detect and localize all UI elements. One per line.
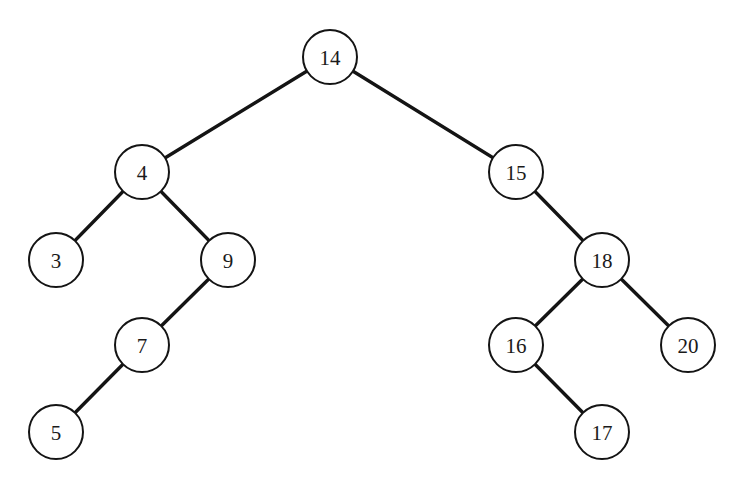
node-label: 18: [592, 249, 613, 273]
node-label: 17: [592, 421, 613, 445]
tree-node: 17: [575, 405, 629, 459]
tree-node: 3: [29, 233, 83, 287]
edge-14-4: [142, 57, 330, 172]
tree-diagram-canvas: 14415391871620517: [0, 0, 753, 480]
node-label: 5: [51, 421, 62, 445]
node-label: 20: [678, 334, 699, 358]
tree-node: 9: [201, 233, 255, 287]
tree-node: 20: [661, 318, 715, 372]
nodes-layer: 14415391871620517: [29, 30, 715, 459]
node-label: 16: [506, 334, 527, 358]
node-label: 14: [320, 46, 342, 70]
tree-node: 14: [303, 30, 357, 84]
node-label: 3: [51, 249, 62, 273]
node-label: 15: [506, 161, 527, 185]
node-label: 4: [137, 161, 148, 185]
tree-node: 5: [29, 405, 83, 459]
tree-node: 7: [115, 318, 169, 372]
edge-14-15: [330, 57, 516, 172]
tree-node: 15: [489, 145, 543, 199]
node-label: 9: [223, 249, 234, 273]
tree-node: 16: [489, 318, 543, 372]
binary-search-tree: 14415391871620517: [0, 0, 753, 480]
tree-node: 18: [575, 233, 629, 287]
node-label: 7: [137, 334, 148, 358]
tree-node: 4: [115, 145, 169, 199]
